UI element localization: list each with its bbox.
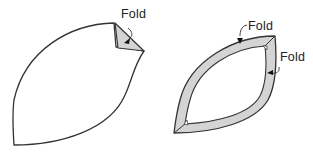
step2-top-fold-label: Fold — [248, 20, 273, 33]
step2-top-arrow-icon — [240, 25, 247, 36]
step2-right-fold-label: Fold — [280, 51, 305, 64]
step2-leaf-shape — [174, 25, 279, 133]
step1-folded-corner — [115, 23, 144, 51]
step1-leaf-shape — [13, 23, 144, 145]
step1-fold-label: Fold — [121, 8, 146, 21]
